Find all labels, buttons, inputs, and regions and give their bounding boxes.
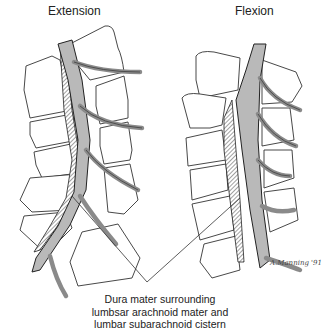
- ext-nerve-5: [50, 256, 66, 296]
- spine-illustration: [0, 0, 322, 330]
- f-vertebra-1: [196, 52, 240, 99]
- dura-caption: Dura mater surrounding lumbsar arachnoid…: [60, 293, 260, 330]
- f-vertebra-2: [182, 94, 226, 129]
- f-vertebra-10: [200, 236, 240, 278]
- f-vertebra-7: [192, 196, 234, 240]
- flexion-spine: [182, 44, 302, 278]
- f-vertebra-4: [262, 60, 302, 104]
- artist-signature: A.Manning '91: [270, 259, 322, 267]
- caption-line-1: Dura mater surrounding: [60, 293, 260, 306]
- caption-line-2: lumbsar arachnoid mater and: [60, 306, 260, 319]
- f-vertebra-3: [186, 130, 226, 166]
- caption-line-3: lumbar subarachnoid cistern: [60, 318, 260, 330]
- f-vertebra-6: [190, 164, 228, 200]
